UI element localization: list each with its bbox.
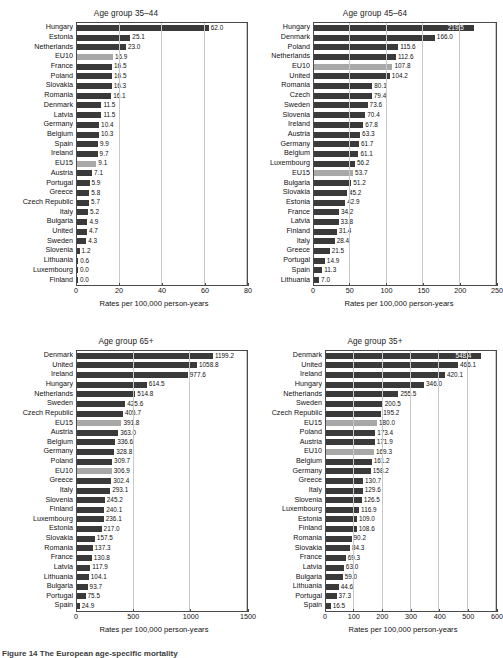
y-tick-label: Slovakia <box>253 187 310 197</box>
bar <box>77 170 92 176</box>
bar-row: 130.7 <box>326 476 496 486</box>
y-tick-label: Germany <box>4 119 73 129</box>
y-tick-label: Latvia <box>4 109 73 119</box>
x-axis-title: Rates per 100,000 person-years <box>60 625 248 634</box>
bar <box>77 459 112 465</box>
bar-value-label: 21.5 <box>332 248 344 254</box>
bar <box>326 478 363 484</box>
grid-line <box>386 23 387 285</box>
bar-row: 16.1 <box>77 91 247 101</box>
bar-row: 90.2 <box>326 534 496 544</box>
bar-value-label: 51.2 <box>353 180 365 186</box>
y-tick-label: Lithuania <box>253 581 322 591</box>
bar-value-label: 109.0 <box>359 516 375 522</box>
bar-row: 37.3 <box>326 592 496 602</box>
bar <box>314 238 335 244</box>
bar-row: 0.6 <box>77 256 247 266</box>
bar-value-label: 245.2 <box>107 497 123 503</box>
bar-value-label: 130.8 <box>94 555 110 561</box>
bar <box>314 229 337 235</box>
bar-value-label: 548.4 <box>455 353 471 359</box>
bar-row: 104.1 <box>77 572 247 582</box>
bar-value-label: 117.9 <box>92 564 108 570</box>
y-axis-labels: DenmarkUnitedIrelandHungaryNetherlandsSw… <box>253 350 325 612</box>
bar-row: 4.9 <box>77 217 247 227</box>
bar <box>77 151 98 157</box>
bar <box>314 170 353 176</box>
bar-row: 34.2 <box>314 207 496 217</box>
bar-row: 336.6 <box>77 438 247 448</box>
bar-value-label: 24.9 <box>82 603 94 609</box>
bar-value-label: 4.7 <box>89 228 98 234</box>
bar <box>77 83 112 89</box>
bar-value-label: 217.0 <box>104 526 120 532</box>
bar-row: 25.1 <box>77 33 247 43</box>
x-tick-label: 250 <box>491 287 503 294</box>
bar <box>314 267 322 273</box>
bar-row: 11.3 <box>314 266 496 276</box>
bar <box>326 497 362 503</box>
grid-line <box>246 23 247 285</box>
bar-row: 200.5 <box>326 399 496 409</box>
bar-row: 7.1 <box>77 169 247 179</box>
panel-title: Age group 65+ <box>4 336 248 348</box>
bar-row: 93.7 <box>77 582 247 592</box>
x-tick-mark <box>119 283 120 286</box>
bar <box>77 468 112 474</box>
y-tick-label: Romania <box>253 80 310 90</box>
y-tick-label: Slovenia <box>4 494 73 504</box>
bar <box>326 401 383 407</box>
bar-value-label: 514.8 <box>137 391 153 397</box>
bar <box>77 584 88 590</box>
bar-value-label: 28.4 <box>337 238 349 244</box>
y-tick-label: France <box>253 206 310 216</box>
x-tick-label: 150 <box>417 287 429 294</box>
x-tick-mark <box>133 609 134 612</box>
x-axis: 0100200300400500600 <box>325 612 497 623</box>
y-tick-label: Spain <box>4 600 73 610</box>
y-tick-label: Netherlands <box>4 389 73 399</box>
bar-row: 391.8 <box>77 418 247 428</box>
grid-line <box>119 23 120 285</box>
x-tick-label: 100 <box>381 287 393 294</box>
grid-line <box>422 23 423 285</box>
bar-value-label: 37.3 <box>339 593 351 599</box>
bar-row: 236.1 <box>77 515 247 525</box>
x-tick-label: 40 <box>158 287 166 294</box>
bar <box>77 141 98 147</box>
bar-value-label: 171.9 <box>377 439 393 445</box>
y-tick-label: Lithuania <box>4 571 73 581</box>
bar-row: 28.4 <box>314 236 496 246</box>
y-tick-label: Bulgaria <box>4 581 73 591</box>
bar-row: 5.7 <box>77 198 247 208</box>
x-tick-label: 0 <box>323 613 327 620</box>
bar-row: 112.6 <box>314 52 496 62</box>
bar-value-label: 10.4 <box>101 122 113 128</box>
bar-row: 7.0 <box>314 275 496 285</box>
bar <box>326 565 344 571</box>
y-axis-labels: HungaryDenmarkPolandNetherlandsEU10Unite… <box>253 22 313 286</box>
bar-row: 63.3 <box>314 130 496 140</box>
bar-row: 548.4 <box>326 351 496 361</box>
x-tick-mark <box>386 283 387 286</box>
y-tick-label: Finland <box>4 504 73 514</box>
bar-value-label: 14.9 <box>327 258 339 264</box>
y-tick-label: Netherlands <box>253 389 322 399</box>
bar-value-label: 306.9 <box>114 468 130 474</box>
y-tick-label: Poland <box>253 427 322 437</box>
y-tick-label: Bulgaria <box>253 177 310 187</box>
y-tick-label: Sweden <box>4 398 73 408</box>
x-tick-mark <box>439 609 440 612</box>
bar <box>77 258 78 264</box>
bar-value-label: 11.3 <box>324 267 336 273</box>
bar-value-label: 61.1 <box>360 151 372 157</box>
x-tick-mark <box>468 609 469 612</box>
x-tick-label: 0 <box>74 287 78 294</box>
y-tick-label: Latvia <box>4 562 73 572</box>
bar-row: 33.8 <box>314 217 496 227</box>
bar-row: 4.3 <box>77 236 247 246</box>
bar-value-label: 420.1 <box>447 372 463 378</box>
y-tick-label: Luxembourg <box>253 158 310 168</box>
bar <box>77 420 121 426</box>
bar-row: 180.0 <box>326 418 496 428</box>
